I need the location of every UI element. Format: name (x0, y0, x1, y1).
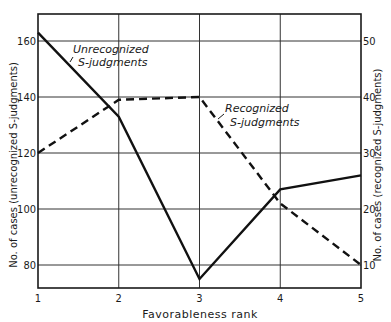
x-tick-label: 1 (35, 292, 41, 305)
left-axis-ticks: 80100120140160 (17, 35, 36, 272)
annotation-leader (70, 57, 73, 62)
y-tick-label-left: 160 (17, 35, 36, 48)
y-tick-label-right: 50 (363, 35, 376, 48)
y-tick-label-left: 140 (17, 91, 36, 104)
annotation-unrecognized: Unrecognized S-judgments (70, 43, 150, 69)
y-tick-label-left: 80 (23, 259, 36, 272)
x-tick-label: 3 (196, 292, 202, 305)
y-tick-label-left: 100 (17, 203, 36, 216)
annotation-recognized-line1: Recognized (225, 102, 290, 115)
x-axis-ticks: 12345 (35, 292, 364, 305)
x-tick-label: 5 (358, 292, 364, 305)
annotation-recognized: Recognized S-judgments (218, 102, 300, 129)
y-axis-label-left: No. of cases (unrecognized S-judgments) (8, 62, 19, 268)
annotation-recognized-line2: S-judgments (230, 116, 300, 129)
x-axis-label: Favorableness rank (142, 308, 258, 321)
x-tick-label: 4 (277, 292, 283, 305)
y-tick-label-left: 120 (17, 147, 36, 160)
annotation-leader (218, 114, 224, 119)
x-tick-label: 2 (116, 292, 122, 305)
y-axis-label-right: No. of cases (recognized S-judgments) (372, 68, 383, 261)
line-chart: 80100120140160 1020304050 12345 No. of c… (0, 0, 391, 322)
annotation-unrecognized-line2: S-judgments (78, 56, 148, 69)
annotation-unrecognized-line1: Unrecognized (73, 43, 150, 56)
